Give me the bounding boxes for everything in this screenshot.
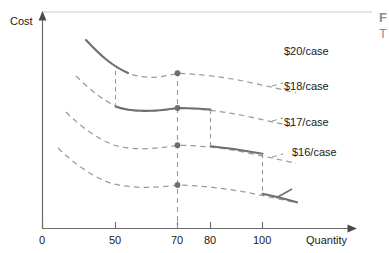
marker-dot-20: [175, 70, 181, 76]
curve-label-20: $20/case: [284, 46, 329, 57]
curve-label-17: $17/case: [284, 117, 329, 128]
cost-curve-18-dashed: [76, 76, 296, 128]
caption-fragment-line-2: T: [379, 26, 389, 42]
x-tick-label-70: 70: [171, 235, 183, 246]
x-tick-label-50: 50: [109, 235, 121, 246]
curve-label-16: $16/case: [292, 147, 337, 158]
curve-label-18: $18/case: [284, 81, 329, 92]
x-axis-ticks: [43, 222, 263, 229]
x-tick-label-80: 80: [204, 235, 216, 246]
marker-dot-16: [175, 182, 181, 188]
cost-curve-17-solid: [211, 146, 263, 154]
leader-18: [272, 118, 283, 121]
leader-20: [272, 83, 283, 86]
x-axis: [42, 225, 357, 233]
cost-curve-figure: Cost Quantity 0 50 70 80 100 $20/case $1…: [0, 0, 389, 253]
cost-curve-18: [76, 76, 296, 128]
cost-curve-20-solid: [86, 40, 128, 73]
y-axis: [39, 11, 47, 228]
caption-fragment-line-1: F: [379, 10, 389, 26]
x-tick-label-0: 0: [39, 235, 45, 246]
x-axis-title: Quantity: [306, 235, 347, 246]
y-axis-title: Cost: [10, 16, 33, 27]
marker-dot-17: [175, 142, 181, 148]
leader-16: [276, 189, 292, 198]
cost-curve-20: [86, 40, 296, 93]
chart-canvas: [0, 0, 389, 253]
x-tick-label-100: 100: [253, 235, 271, 246]
marker-dot-18: [175, 105, 181, 111]
cost-curve-18-solid: [116, 107, 211, 111]
leader-17: [272, 154, 283, 157]
